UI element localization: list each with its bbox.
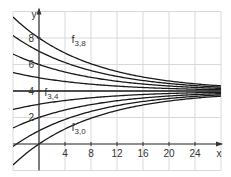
curve-label-3-4: f3,4: [44, 86, 59, 101]
y-axis-label: y: [32, 9, 37, 20]
y-tick-label: 6: [28, 59, 34, 70]
y-tick-label: 4: [28, 86, 34, 97]
x-tick-label: 16: [137, 148, 149, 159]
x-axis-arrow-icon: [216, 142, 223, 147]
plot-area: 48121620242468xyf3,8f3,4f3,0: [0, 0, 231, 177]
x-tick-label: 4: [62, 148, 68, 159]
curve-label-3-8: f3,8: [72, 33, 87, 48]
x-tick-label: 20: [163, 148, 175, 159]
x-tick-label: 12: [111, 148, 123, 159]
y-tick-label: 2: [28, 112, 34, 123]
x-tick-label: 24: [189, 148, 201, 159]
x-axis-label: x: [217, 148, 222, 159]
x-tick-label: 8: [88, 148, 94, 159]
y-tick-label: 8: [28, 33, 34, 44]
chart: 48121620242468xyf3,8f3,4f3,0: [0, 0, 231, 177]
